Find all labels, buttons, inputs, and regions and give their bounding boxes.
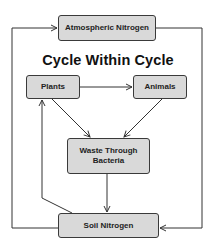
node-plants-label: Plants	[41, 82, 65, 92]
node-soil-nitrogen-label: Soil Nitrogen	[84, 221, 134, 231]
node-atmospheric-nitrogen-label: Atmospheric Nitrogen	[65, 23, 149, 33]
edge-plants-to-waste	[52, 99, 90, 137]
edge-animals-to-waste	[124, 99, 162, 137]
diagram-title: Cycle Within Cycle	[0, 52, 216, 68]
node-soil-nitrogen: Soil Nitrogen	[58, 213, 159, 238]
node-atmospheric-nitrogen: Atmospheric Nitrogen	[58, 15, 156, 41]
node-plants: Plants	[26, 75, 80, 99]
node-waste-through-bacteria: Waste Through Bacteria	[67, 138, 150, 174]
node-waste-through-bacteria-label: Waste Through Bacteria	[76, 146, 141, 166]
node-animals-label: Animals	[144, 82, 175, 92]
node-animals: Animals	[133, 75, 187, 99]
